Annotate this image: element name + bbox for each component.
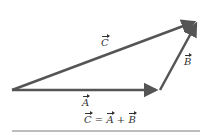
bottom-rule	[12, 130, 200, 132]
equation-equals: =	[92, 114, 107, 125]
vector-c-label: C	[101, 37, 109, 48]
equation-a: A	[106, 114, 113, 125]
equation-b: B	[128, 114, 135, 125]
equation: C = A + B	[84, 114, 136, 125]
equation-lhs: C	[84, 114, 92, 125]
equation-plus: +	[114, 114, 129, 125]
vector-b-label: B	[184, 56, 191, 67]
vector-a-label: A	[82, 97, 89, 108]
